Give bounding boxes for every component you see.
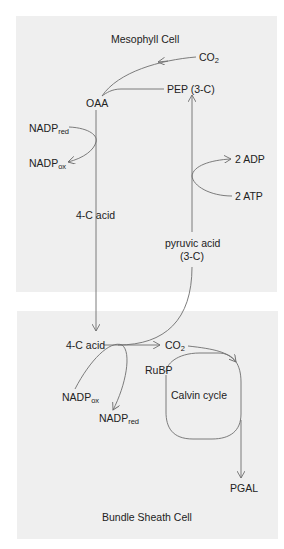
bundle-sheath-cell-title: Bundle Sheath Cell (102, 511, 192, 523)
nadp-base: NADP (62, 391, 91, 403)
pep-to-oaa-line (102, 89, 164, 96)
nadp-ox-mesophyll-label: NADPox (29, 157, 66, 169)
nadp-red-bundle-label: NADPred (99, 412, 139, 424)
nadp-red-mesophyll-label: NADPred (29, 122, 69, 134)
co2-base: CO (199, 51, 215, 63)
nadp-base: NADP (29, 122, 58, 134)
nadp-sub: red (58, 127, 69, 136)
co2-to-calvin-arrow (188, 346, 236, 362)
rubp-label: RuBP (145, 364, 172, 376)
oaa-label: OAA (86, 97, 108, 109)
mesophyll-cell-title: Mesophyll Cell (111, 33, 179, 45)
adp-label: 2 ADP (235, 153, 265, 165)
nadp-sub: ox (91, 396, 99, 405)
nadp-base: NADP (29, 157, 58, 169)
nadp-sub: red (128, 417, 139, 426)
nadp-sub: ox (58, 162, 66, 171)
pathway-arrows (0, 0, 284, 549)
4c-acid-mesophyll-label: 4-C acid (76, 209, 115, 221)
nadp-red-to-ox-arrow (68, 127, 96, 162)
atp-to-adp-arrow (192, 159, 232, 196)
co2-base: CO (165, 339, 181, 351)
co2-mesophyll-label: CO2 (199, 51, 219, 63)
4c-acid-to-pyruvic-arrow (118, 267, 192, 345)
pyruvic-acid-label: pyruvic acid (165, 237, 220, 249)
co2-sub: 2 (215, 56, 219, 65)
pep-label: PEP (3-C) (167, 83, 215, 95)
4c-acid-bundle-label: 4-C acid (66, 339, 105, 351)
nadp-base: NADP (99, 412, 128, 424)
pgal-label: PGAL (230, 482, 258, 494)
pyruvic-carbon-label: (3-C) (180, 250, 204, 262)
atp-label: 2 ATP (235, 190, 263, 202)
co2-bundle-label: CO2 (165, 339, 185, 351)
co2-sub: 2 (181, 344, 185, 353)
calvin-cycle-label: Calvin cycle (171, 389, 227, 401)
nadp-ox-bundle-label: NADPox (62, 391, 99, 403)
